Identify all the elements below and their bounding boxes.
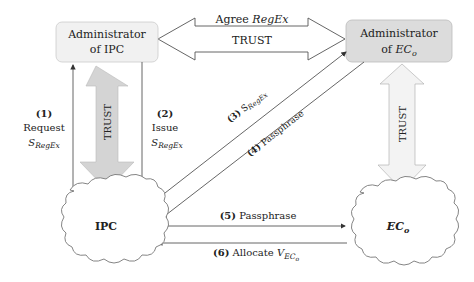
step4-label: (4) Passphrase	[245, 108, 306, 158]
admin-ipc-label-line2: of IPC	[90, 43, 124, 56]
ec-cloud	[351, 176, 458, 265]
diagram-canvas: Administrator of IPC Administrator of EC…	[0, 0, 474, 282]
step1-text: Request	[23, 122, 64, 133]
ipc-label: IPC	[95, 220, 117, 233]
step1-symbol: SRegEx	[28, 137, 60, 150]
ipc-cloud	[61, 174, 168, 263]
step5-label: (5) Passphrase	[220, 210, 297, 221]
right-trust-label: TRUST	[397, 106, 408, 142]
admin-ec-label-line1: Administrator	[359, 27, 438, 40]
step2-text: Issue	[152, 122, 179, 133]
step1-number: (1)	[36, 108, 52, 119]
admin-ipc-label-line1: Administrator	[67, 28, 146, 41]
agree-regex-label: Agree RegEx	[215, 13, 290, 26]
left-trust-label: TRUST	[102, 104, 113, 140]
step3-label: (3) SRegEx	[225, 88, 269, 126]
step3-arrow	[156, 52, 346, 200]
top-trust-label: TRUST	[232, 34, 272, 47]
admin-ec-label-line2: of ECo	[381, 43, 417, 58]
step2-number: (2)	[157, 108, 173, 119]
step6-label: (6) Allocate VECo	[213, 247, 299, 262]
step2-symbol: SRegEx	[151, 137, 183, 150]
